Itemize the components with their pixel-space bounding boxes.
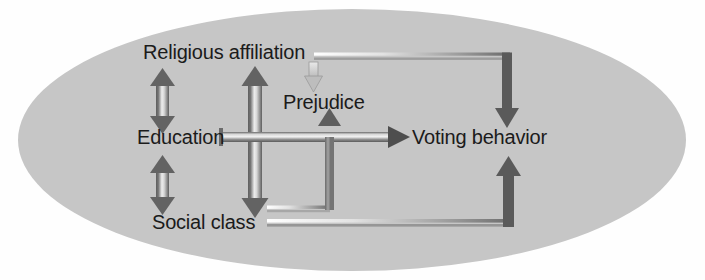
node-social-class: Social class [152, 212, 255, 232]
node-prejudice: Prejudice [283, 92, 365, 112]
node-religious-affiliation: Religious affiliation [143, 42, 305, 62]
node-education: Education [137, 127, 224, 147]
path-diagram: Religious affiliation Prejudice Educatio… [0, 0, 705, 280]
node-voting-behavior: Voting behavior [412, 127, 547, 147]
diagram-canvas [0, 0, 705, 280]
